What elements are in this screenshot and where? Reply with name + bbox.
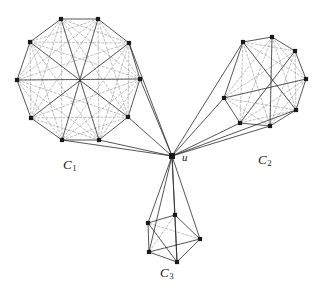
cluster-label-c2: C2 (258, 152, 272, 168)
cluster-label-c1: C1 (63, 157, 77, 173)
vertex-a6 (97, 138, 101, 142)
vertex-a8 (29, 116, 33, 120)
vertex-b8 (222, 96, 226, 100)
cluster-label-c1-sub: 1 (72, 163, 76, 173)
vertex-a5 (126, 115, 130, 119)
cluster-label-c2-sub: 2 (267, 158, 271, 168)
vertex-c3 (175, 260, 179, 264)
cluster-label-c1-base: C (63, 157, 72, 172)
vertex-a7 (60, 138, 64, 142)
vertex-a10 (28, 40, 32, 44)
vertex-b4 (304, 77, 308, 81)
vertex-a4 (138, 77, 142, 81)
vertex-b7 (238, 121, 242, 125)
vertex-a1 (59, 17, 63, 21)
cluster-label-c3: C3 (160, 265, 174, 281)
vertex-c1 (173, 213, 177, 217)
vertex-a2 (96, 17, 100, 21)
hub-vertex-label: u (182, 151, 188, 163)
cluster-label-c3-sub: 3 (169, 271, 173, 281)
cluster-label-c3-base: C (160, 265, 169, 280)
vertex-b6 (268, 124, 272, 128)
vertex-b1 (241, 40, 245, 44)
vertex-c2 (198, 237, 202, 241)
graph-figure (0, 0, 324, 291)
vertex-b2 (270, 35, 274, 39)
vertex-b3 (293, 49, 297, 53)
figure-background (0, 0, 324, 291)
vertex-a3 (127, 41, 131, 45)
cluster-label-c2-base: C (258, 152, 267, 167)
vertex-c4 (147, 250, 151, 254)
vertex-b5 (294, 108, 298, 112)
vertex-c5 (146, 221, 150, 225)
hub-vertex-u (169, 153, 175, 159)
vertex-a9 (15, 78, 19, 82)
